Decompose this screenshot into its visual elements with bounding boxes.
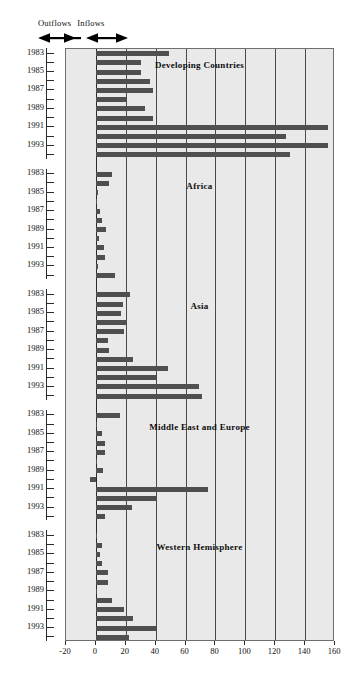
bar [96,255,105,260]
bar [96,616,133,621]
year-tick [46,80,54,81]
bar [96,598,112,603]
bar [96,143,328,148]
year-label-1991: 1991 [27,120,44,130]
year-tick [46,53,54,54]
year-label-1991: 1991 [27,482,44,492]
bar [96,60,141,65]
x-tick-label-20: 20 [121,646,130,656]
bar [96,152,290,157]
bar [96,134,286,139]
plot-area: Developing CountriesAfricaAsiaMiddle Eas… [65,48,334,641]
bar [96,70,141,75]
year-tick [46,553,54,554]
year-tick [46,154,54,155]
year-tick [46,229,54,230]
year-tick [46,210,54,211]
bar [96,320,127,325]
year-label-1993: 1993 [27,139,44,149]
year-tick [46,636,54,637]
year-label-1985: 1985 [27,427,44,437]
year-tick [46,479,54,480]
year-tick [46,238,54,239]
bar [96,302,123,307]
bar [96,635,129,640]
year-tick [46,600,54,601]
year-tick [46,303,54,304]
bar [96,292,130,297]
legend-arrows [36,31,206,47]
year-tick [46,71,54,72]
year-tick [46,136,54,137]
year-tick [46,470,54,471]
x-tick-40 [155,641,156,645]
year-label-1989: 1989 [27,102,44,112]
bar [96,209,100,214]
year-tick [46,488,54,489]
bar [96,496,157,501]
year-axis-line [46,48,47,159]
year-label-1985: 1985 [27,547,44,557]
year-tick [46,507,54,508]
bar [96,468,103,473]
bar-group [66,170,333,281]
year-tick [46,89,54,90]
bar [96,106,145,111]
year-tick [46,497,54,498]
bar [96,413,120,418]
panel-asia: Asia [66,290,333,401]
bar [96,338,108,343]
panel-western-hemisphere: Western Hemisphere [66,531,333,642]
bar [96,348,109,353]
bar-group [66,290,333,401]
year-tick [46,460,54,461]
year-tick [46,219,54,220]
x-tick-label-40: 40 [150,646,159,656]
year-label-1993: 1993 [27,259,44,269]
x-tick-label-0: 0 [93,646,97,656]
year-label-1993: 1993 [27,380,44,390]
year-label-1985: 1985 [27,186,44,196]
bar [96,181,109,186]
year-label-1983: 1983 [27,47,44,57]
year-tick [46,451,54,452]
year-tick [46,414,54,415]
bar [96,97,126,102]
arrow-left-icon [38,33,50,43]
year-tick [46,192,54,193]
year-tick [46,386,54,387]
x-axis: -20020406080100120140160 [65,641,334,663]
year-label-1989: 1989 [27,464,44,474]
year-label-1989: 1989 [27,223,44,233]
year-label-1987: 1987 [27,83,44,93]
year-tick [46,516,54,517]
year-label-1987: 1987 [27,325,44,335]
x-tick-label-120: 120 [268,646,281,656]
year-label-1983: 1983 [27,167,44,177]
x-tick-120 [274,641,275,645]
x-tick-label-140: 140 [298,646,311,656]
bar [96,190,98,195]
year-label-1983: 1983 [27,288,44,298]
year-label-1983: 1983 [27,408,44,418]
year-tick [46,312,54,313]
year-tick [46,377,54,378]
year-axis-line [46,289,47,400]
year-tick [46,358,54,359]
year-label-1991: 1991 [27,603,44,613]
legend-labels: Outflows Inflows [36,18,206,28]
year-label-1985: 1985 [27,65,44,75]
year-axis: 198319851987198919911993 [46,169,65,280]
x-tick-label-100: 100 [238,646,251,656]
bar [96,329,124,334]
bar [96,88,153,93]
year-tick [46,618,54,619]
year-label-1991: 1991 [27,362,44,372]
bar [96,607,124,612]
bar [96,580,108,585]
year-label-1993: 1993 [27,501,44,511]
year-label-1991: 1991 [27,241,44,251]
bar [96,459,97,464]
year-tick [46,535,54,536]
legend: Outflows Inflows [36,18,206,52]
